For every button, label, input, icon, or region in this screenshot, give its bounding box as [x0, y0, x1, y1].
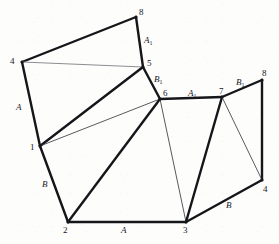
edge-label-subscript: 1 [242, 82, 245, 88]
vertex-label-v4-left: 4 [10, 57, 15, 66]
vertex-label-v1: 1 [30, 143, 35, 152]
edge-v7-to-v3 [186, 97, 222, 222]
vertex-label-v3: 3 [183, 226, 188, 235]
vertex-node-v8-right [261, 79, 264, 82]
vertex-node-v3 [185, 221, 188, 224]
vertex-label-v4-right: 4 [263, 185, 268, 194]
edge-label-lbl-B-bottom: B [226, 201, 232, 210]
vertex-node-v8-top [135, 16, 138, 19]
vertex-label-v7: 7 [219, 87, 224, 96]
edge-label-lbl-B1-right: B1 [236, 78, 245, 87]
edge-v6-to-v3 [160, 99, 186, 222]
vertex-label-v6: 6 [163, 89, 168, 98]
net-diagram-canvas [0, 0, 279, 244]
vertex-label-v2: 2 [63, 226, 68, 235]
edge-v7-to-v4-right [222, 97, 262, 180]
edge-label-lbl-A-bottom: A [121, 226, 127, 235]
edge-label-subscript: 1 [160, 79, 163, 85]
edge-v8-top-to-v5 [136, 17, 143, 67]
edge-label-lbl-A-left: A [16, 103, 22, 112]
edge-label-subscript: 1 [150, 40, 153, 46]
edge-v4-left-to-v5 [22, 62, 143, 67]
vertex-node-v1 [39, 145, 42, 148]
edge-v4-left-to-v1 [22, 62, 40, 146]
vertex-node-v2 [67, 221, 70, 224]
edge-label-lbl-B-left: B [42, 180, 48, 189]
edge-label-lbl-A1-top: A1 [144, 36, 153, 45]
net-diagram-figure: 8458671423 A1B1A1B1ABAB [0, 0, 279, 244]
vertex-label-v8-top: 8 [139, 8, 144, 17]
edge-v4-left-to-v8-top [22, 17, 136, 62]
vertex-node-v4-right [261, 179, 264, 182]
edge-v1-to-v5 [40, 67, 143, 146]
vertex-label-v8-right: 8 [262, 69, 267, 78]
vertex-node-v5 [142, 66, 145, 69]
edges-group [22, 17, 262, 222]
edge-label-subscript: 1 [194, 93, 197, 99]
vertex-node-v6 [159, 98, 162, 101]
edge-label-lbl-A1-mid: A1 [188, 89, 197, 98]
vertex-label-v5: 5 [147, 59, 152, 68]
vertex-node-v4-left [21, 61, 24, 64]
edge-label-lbl-B1-mid: B1 [154, 75, 163, 84]
